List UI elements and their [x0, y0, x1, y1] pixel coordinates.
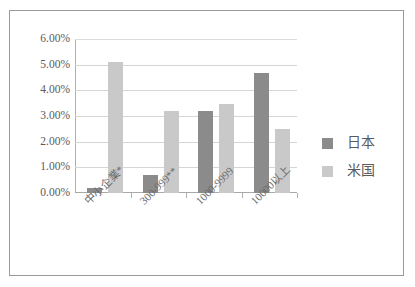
- x-axis-category-labels: 中小企業*300-999**1000-999910000以上: [10, 199, 330, 275]
- legend-label: 米国: [347, 164, 375, 178]
- y-axis-tick-label: 6.00%: [18, 33, 70, 45]
- x-axis-tick: [186, 193, 187, 198]
- bar-group: [131, 39, 187, 193]
- x-axis-tick: [242, 193, 243, 198]
- x-axis-tick: [131, 193, 132, 198]
- y-axis-tick-label: 0.00%: [18, 187, 70, 199]
- y-axis-tick-label: 3.00%: [18, 110, 70, 122]
- y-axis-tick-label: 4.00%: [18, 85, 70, 97]
- y-axis-tick-label: 2.00%: [18, 136, 70, 148]
- y-axis-tick-label: 5.00%: [18, 59, 70, 71]
- legend-label: 日本: [347, 136, 375, 150]
- bar[interactable]: [254, 73, 269, 193]
- y-axis-tick-label: 1.00%: [18, 162, 70, 174]
- legend-item[interactable]: 米国: [322, 157, 402, 185]
- legend-item[interactable]: 日本: [322, 129, 402, 157]
- legend-color-swatch: [322, 138, 333, 149]
- chart-legend: 日本米国: [322, 129, 402, 185]
- plot-area: [75, 39, 297, 193]
- chart-frame: 0.00%1.00%2.00%3.00%4.00%5.00%6.00% 中小企業…: [9, 10, 404, 276]
- legend-color-swatch: [322, 166, 333, 177]
- chart-plot-wrapper: 0.00%1.00%2.00%3.00%4.00%5.00%6.00% 中小企業…: [10, 11, 405, 277]
- x-axis-tick: [297, 193, 298, 198]
